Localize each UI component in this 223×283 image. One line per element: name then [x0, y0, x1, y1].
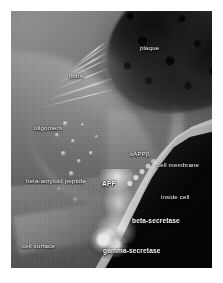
amyloid-pathway-figure: plaquefibrilsoligomerssAPPβcell membrane… [11, 11, 212, 268]
image-frame: plaquefibrilsoligomerssAPPβcell membrane… [0, 0, 223, 283]
label-sappb: sAPPβ [130, 150, 150, 158]
label-plaque: plaque [140, 44, 159, 52]
label-oligomers: oligomers [34, 124, 62, 132]
label-cell-membrane: cell membrane [157, 161, 199, 169]
label-app: APP [102, 180, 116, 188]
label-gamma-secretase: gamma-secretase [103, 247, 161, 255]
vignette-overlay [11, 11, 212, 268]
label-inside-cell: inside cell [161, 193, 190, 201]
label-fibrils: fibrils [69, 72, 84, 80]
label-beta-amyloid-peptide: beta-amyloid peptide [26, 177, 86, 185]
label-cell-surface: cell surface [22, 242, 55, 250]
label-beta-secretase: beta-secretase [132, 217, 180, 225]
